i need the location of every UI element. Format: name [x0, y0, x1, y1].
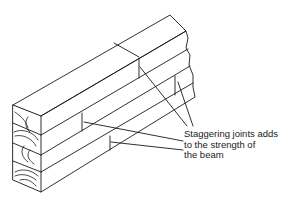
- annotation-line-1: Staggering joints adds: [184, 129, 278, 140]
- beam-diagram: [0, 0, 299, 200]
- annotation-label: Staggering joints adds to the strength o…: [184, 129, 278, 161]
- annotation-line-3: the beam: [184, 150, 278, 161]
